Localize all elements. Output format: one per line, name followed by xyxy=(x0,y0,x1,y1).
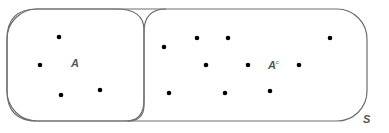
point xyxy=(195,36,200,41)
point xyxy=(268,89,273,94)
point xyxy=(59,93,64,98)
point xyxy=(167,91,172,96)
point xyxy=(223,91,228,96)
points-in-a xyxy=(38,35,103,98)
point xyxy=(98,88,103,93)
point xyxy=(162,45,167,50)
universe-label: S xyxy=(363,114,370,125)
point xyxy=(57,35,62,40)
point xyxy=(38,63,43,68)
point xyxy=(328,36,333,41)
venn-diagram xyxy=(0,0,389,133)
points-in-complement xyxy=(162,36,333,96)
point xyxy=(246,63,251,68)
point xyxy=(297,63,302,68)
complement-label-base: A xyxy=(268,59,276,71)
universe-set-s xyxy=(7,9,367,121)
set-a-label: A xyxy=(71,58,79,69)
complement-label: Ac xyxy=(268,60,279,71)
point xyxy=(204,63,209,68)
complement-superscript: c xyxy=(276,59,279,65)
point xyxy=(226,36,231,41)
complement-boundary xyxy=(128,9,166,121)
